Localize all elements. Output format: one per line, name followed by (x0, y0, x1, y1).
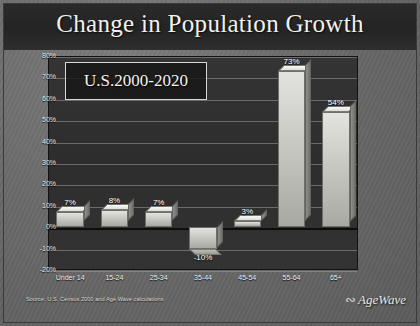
x-axis-tick-label: 55-64 (269, 274, 313, 281)
bar-value-label: -10% (181, 253, 224, 262)
y-axis-tick-label: -20% (16, 266, 56, 273)
y-axis-tick-label: 20% (16, 180, 56, 187)
x-axis-tick-label: Under 14 (48, 274, 92, 281)
bar (189, 227, 216, 248)
bar-front-face (189, 227, 216, 248)
y-axis-tick-label: 70% (16, 73, 56, 80)
page-title: Change in Population Growth (0, 10, 420, 38)
bar-side-face (350, 100, 356, 222)
bar-side-face (305, 59, 311, 221)
y-axis-tick-label: -10% (16, 245, 56, 252)
bar-front-face (322, 112, 349, 228)
bar (234, 221, 261, 227)
bar-value-label: 7% (48, 198, 91, 207)
x-axis-tick-label: 45-54 (225, 274, 269, 281)
gridline (49, 271, 357, 272)
y-axis-tick-label: 0% (16, 223, 56, 230)
x-axis-tick-label: 65+ (314, 274, 358, 281)
source-note: Source: U.S. Census 2000 and Age Wave ca… (26, 296, 163, 302)
y-axis-tick-label: 30% (16, 159, 56, 166)
bar-value-label: 73% (270, 57, 313, 66)
bar-value-label: 8% (93, 196, 136, 205)
y-axis-tick-label: 80% (16, 52, 56, 59)
agewave-logo: ∾ AgeWave (345, 292, 406, 308)
bar-front-face (234, 221, 261, 227)
bar (145, 212, 172, 227)
callout-label: U.S.2000-2020 (84, 71, 188, 91)
bar-front-face (101, 210, 128, 227)
x-axis-tick-label: 25-34 (137, 274, 181, 281)
bar (56, 212, 83, 227)
bar (278, 71, 305, 227)
slide: Change in Population Growth 80%70%60%50%… (0, 0, 420, 326)
bar-value-label: 3% (226, 207, 269, 216)
y-axis-tick-label: 60% (16, 95, 56, 102)
logo-text: AgeWave (358, 292, 406, 308)
x-axis-tick-label: 15-24 (92, 274, 136, 281)
callout-box: U.S.2000-2020 (65, 62, 207, 100)
bar-front-face (145, 212, 172, 227)
bar-value-label: 7% (137, 198, 180, 207)
bar-value-label: 54% (314, 98, 357, 107)
swoosh-icon: ∾ (345, 293, 356, 306)
bar (101, 210, 128, 227)
bar-front-face (278, 71, 305, 227)
bar (322, 112, 349, 228)
y-axis-tick-label: 40% (16, 138, 56, 145)
x-axis-tick-label: 35-44 (181, 274, 225, 281)
y-axis-tick-label: 50% (16, 116, 56, 123)
bar-front-face (56, 212, 83, 227)
